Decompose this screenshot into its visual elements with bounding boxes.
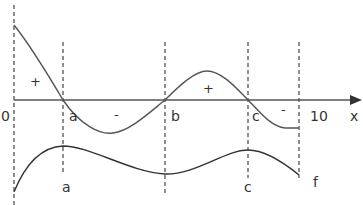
sign-label-2: - <box>114 108 119 121</box>
f-curve-label: f <box>313 175 318 189</box>
sign-label-4: - <box>281 103 286 116</box>
axis-point-a: a <box>69 109 78 123</box>
axis-end-label: 10 <box>310 109 328 123</box>
axis-point-c: c <box>252 109 260 123</box>
f-point-a: a <box>62 180 71 194</box>
axis-variable-label: x <box>350 109 358 123</box>
sign-label-3: + <box>203 82 214 95</box>
diagram-canvas <box>0 0 363 205</box>
f-point-c: c <box>244 180 252 194</box>
x-axis-arrow-icon <box>350 95 362 105</box>
function-curve-f <box>14 146 299 192</box>
sign-label-1: + <box>30 75 41 88</box>
axis-point-b: b <box>171 109 180 123</box>
axis-start-label: 0 <box>1 109 10 123</box>
